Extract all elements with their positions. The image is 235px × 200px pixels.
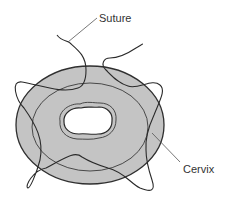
- cervix-label: Cervix: [183, 163, 215, 175]
- external-os: [64, 107, 112, 134]
- suture-label: Suture: [99, 12, 131, 24]
- cervix-suture-diagram: Suture Cervix: [0, 0, 235, 200]
- suture-leader-line: [68, 18, 97, 42]
